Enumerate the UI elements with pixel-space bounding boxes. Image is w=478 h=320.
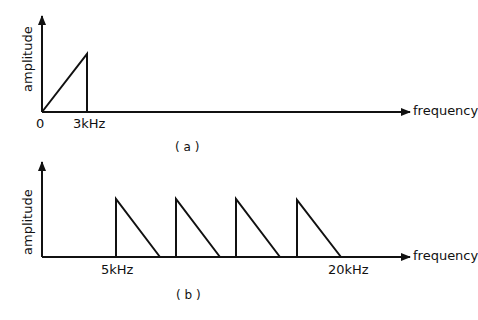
panel-a-tick-0: 0 (36, 116, 44, 131)
panel-a-xlabel: frequency (413, 103, 478, 118)
panel-a-spectrum (42, 54, 87, 112)
panel-a-ylabel: amplitude (20, 26, 35, 92)
panel-b-tick-20khz: 20kHz (328, 262, 369, 277)
panel-b-spectrum (116, 199, 341, 257)
panel-b-xlabel: frequency (413, 248, 478, 263)
panel-a-tick-3khz: 3kHz (73, 116, 105, 131)
panel-a-axes (42, 16, 410, 112)
panel-b-caption: ( b ) (176, 288, 201, 302)
panel-b-tick-5khz: 5kHz (101, 262, 133, 277)
panel-a-caption: ( a ) (175, 140, 199, 154)
panel-b-axes (42, 162, 410, 257)
panel-b-ylabel: amplitude (20, 189, 35, 255)
